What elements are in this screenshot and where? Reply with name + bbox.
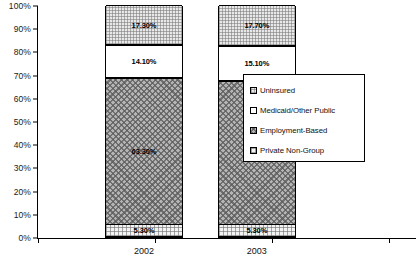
y-axis-tick-mark — [33, 98, 38, 99]
y-axis-tick-label: 60% — [14, 94, 31, 104]
y-axis-tick-label: 0% — [19, 233, 32, 243]
y-axis-tick-label: 100% — [9, 1, 31, 11]
legend-item-label: Employment-Based — [260, 126, 327, 135]
bar-segment[interactable]: 63.30% — [106, 78, 182, 225]
x-axis-tick-mark — [389, 238, 390, 243]
bar-segment-label: 5.30% — [134, 226, 155, 235]
bar-segment[interactable]: 5.30% — [106, 225, 182, 237]
y-axis: 0%10%20%30%40%50%60%70%80%90%100% — [0, 6, 34, 238]
legend-swatch-icon — [250, 147, 257, 154]
y-axis-tick-mark — [33, 214, 38, 215]
bar-segment-label: 14.10% — [132, 57, 157, 66]
bar-segment-label: 15.10% — [244, 59, 269, 68]
bar-segment-label: 17.30% — [132, 21, 157, 30]
x-axis-tick-label: 2003 — [247, 246, 267, 256]
y-axis-tick-label: 80% — [14, 47, 31, 57]
legend-item[interactable]: Uninsured — [250, 80, 364, 100]
y-axis-tick-mark — [33, 122, 38, 123]
legend-item-label: Private Non-Group — [260, 146, 324, 155]
bar-segment-label: 5.30% — [246, 226, 267, 235]
x-axis-tick-mark — [155, 238, 156, 243]
x-axis-tick-label: 2002 — [134, 246, 154, 256]
chart-legend: UninsuredMedicaid/Other PublicEmployment… — [243, 74, 365, 162]
bar-segment-label: 63.30% — [132, 147, 157, 156]
x-axis-tick-mark — [38, 238, 39, 243]
y-axis-tick-mark — [33, 75, 38, 76]
legend-swatch-icon — [250, 107, 257, 114]
bar-2002[interactable]: 5.30%63.30%14.10%17.30% — [105, 6, 183, 238]
x-axis-tick-mark — [272, 238, 273, 243]
y-axis-tick-mark — [33, 168, 38, 169]
y-axis-tick-mark — [33, 52, 38, 53]
bar-segment[interactable]: 5.30% — [219, 225, 295, 237]
legend-item-label: Uninsured — [260, 86, 295, 95]
y-axis-tick-label: 20% — [14, 187, 31, 197]
y-axis-tick-label: 90% — [14, 24, 31, 34]
y-axis-tick-label: 40% — [14, 140, 31, 150]
y-axis-tick-label: 10% — [14, 210, 31, 220]
bar-segment-label: 17.70% — [244, 21, 269, 30]
legend-item-label: Medicaid/Other Public — [260, 106, 335, 115]
x-axis-line — [37, 238, 416, 239]
y-axis-tick-mark — [33, 145, 38, 146]
legend-item[interactable]: Private Non-Group — [250, 140, 364, 160]
bar-segment[interactable]: 14.10% — [106, 45, 182, 78]
y-axis-tick-label: 30% — [14, 163, 31, 173]
legend-swatch-icon — [250, 127, 257, 134]
legend-swatch-icon — [250, 87, 257, 94]
stacked-bar-chart: 0%10%20%30%40%50%60%70%80%90%100% 5.30%6… — [0, 0, 420, 270]
y-axis-tick-label: 50% — [14, 117, 31, 127]
y-axis-tick-mark — [33, 6, 38, 7]
y-axis-tick-mark — [33, 29, 38, 30]
y-axis-tick-mark — [33, 191, 38, 192]
legend-item[interactable]: Employment-Based — [250, 120, 364, 140]
bar-segment[interactable]: 17.70% — [219, 5, 295, 46]
bar-segment[interactable]: 17.30% — [106, 5, 182, 45]
legend-item[interactable]: Medicaid/Other Public — [250, 100, 364, 120]
y-axis-tick-label: 70% — [14, 71, 31, 81]
